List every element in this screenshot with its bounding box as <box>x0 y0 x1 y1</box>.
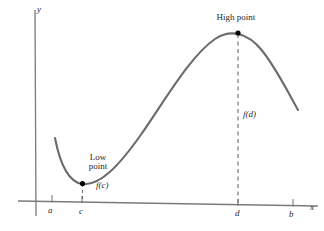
x-axis-line <box>18 201 318 206</box>
low-point-marker <box>80 181 85 186</box>
plot-canvas <box>0 0 324 231</box>
tick-label-d: d <box>235 209 240 218</box>
high-point-label: High point <box>196 13 276 22</box>
tick-label-c: c <box>79 207 83 216</box>
f-of-d-label: f(d) <box>243 110 256 119</box>
x-axis-label: x <box>310 203 314 212</box>
f-of-c-label: f(c) <box>96 181 109 190</box>
tick-label-b: b <box>289 210 294 219</box>
low-point-label: Low point <box>75 153 121 172</box>
extrema-figure: y x a c d b High point Low point f(c) f(… <box>0 0 324 231</box>
high-point-marker <box>235 30 240 35</box>
tick-label-a: a <box>48 206 53 215</box>
y-axis-line <box>35 10 36 216</box>
low-point-label-line2: point <box>75 162 121 171</box>
y-axis-label: y <box>37 5 41 14</box>
